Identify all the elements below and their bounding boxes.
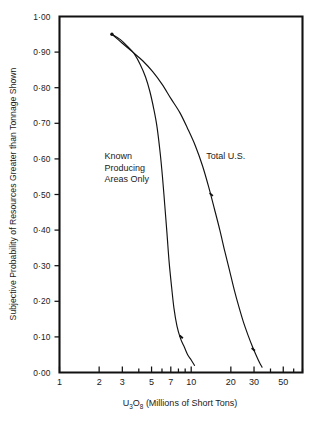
- y-axis-tick-label: 0·30: [33, 261, 50, 271]
- y-axis-tick-label: 0·90: [33, 47, 50, 57]
- curves-origin-point: [110, 33, 113, 36]
- plot-frame: [60, 17, 303, 373]
- series-point-marker: [252, 348, 255, 351]
- series-curves: [110, 33, 262, 368]
- series-curve-line: [112, 34, 262, 367]
- x-axis-tick-label: 50: [278, 377, 288, 387]
- x-axis-tick-label: 3: [120, 377, 125, 387]
- y-axis-tick-label: 0·50: [33, 190, 50, 200]
- y-axis-tick-label: 0·80: [33, 83, 50, 93]
- known-producing-areas-label: KnownProducingAreas Only: [105, 151, 150, 184]
- uranium-resource-probability-chart: Subjective Probability of Resources Grea…: [0, 0, 315, 423]
- x-axis-tick-labels: 1235710203050: [57, 377, 288, 387]
- series-total-us: [112, 34, 262, 367]
- y-axis-tick-label: 1·00: [33, 12, 50, 22]
- y-axis-tick-label: 0·10: [33, 332, 50, 342]
- series-curve-line: [112, 34, 195, 365]
- x-axis-tick-label: 30: [249, 377, 259, 387]
- x-axis-tick-label: 5: [149, 377, 154, 387]
- y-axis-title-text: Subjective Probability of Resources Grea…: [8, 67, 18, 320]
- x-axis-title-text: U3O8 (Millions of Short Tons): [123, 398, 238, 410]
- x-axis-tick-label: 10: [186, 377, 196, 387]
- y-axis-tick-label: 0·40: [33, 225, 50, 235]
- y-axis-tick-labels: 1·000·900·800·700·600·500·400·300·200·10…: [33, 12, 50, 378]
- y-axis-tick-label: 0·60: [33, 154, 50, 164]
- x-axis-tick-label: 2: [97, 377, 102, 387]
- chart-canvas: Subjective Probability of Resources Grea…: [0, 0, 315, 423]
- x-axis-tick-label: 20: [226, 377, 236, 387]
- series-point-marker: [210, 193, 213, 196]
- total-us-label: Total U.S.: [206, 151, 245, 161]
- x-axis-title: U3O8 (Millions of Short Tons): [123, 398, 238, 410]
- y-axis-tick-label: 0·70: [33, 118, 50, 128]
- curve-annotations: KnownProducingAreas OnlyTotal U.S.: [105, 151, 246, 184]
- y-axis-tick-label: 0·20: [33, 296, 50, 306]
- series-known-producing-areas: [112, 34, 195, 365]
- x-axis-tick-label: 7: [168, 377, 173, 387]
- x-axis-tick-label: 1: [57, 377, 62, 387]
- y-axis-tick-label: 0·00: [33, 368, 50, 378]
- y-axis-title: Subjective Probability of Resources Grea…: [8, 67, 18, 320]
